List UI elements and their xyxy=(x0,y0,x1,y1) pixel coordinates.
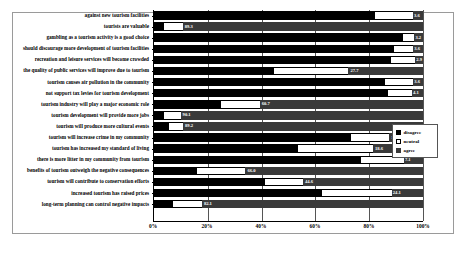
data-label: 3.2 xyxy=(415,35,421,40)
x-tick-label: 0% xyxy=(149,223,157,229)
chart-page: against new tourism facilitiestourists a… xyxy=(0,0,466,266)
bar-segment-neutral xyxy=(388,89,412,98)
bar-segment-agree: 24.1 xyxy=(392,189,423,198)
data-label: 89.2 xyxy=(185,124,193,129)
x-tick-label: 40% xyxy=(256,223,267,229)
x-tick-label: 20% xyxy=(202,223,213,229)
category-label-column: against new tourism facilitiestourists a… xyxy=(0,10,152,210)
bar-segment-agree: 2.9 xyxy=(415,56,423,65)
category-label: tourism development will provide more jo… xyxy=(0,110,152,121)
bar-segment-agree: 3.2 xyxy=(414,33,423,42)
data-label: 82.1 xyxy=(204,202,212,207)
category-label: tourism will increase crime in my commun… xyxy=(0,132,152,143)
bar-segment-disagree xyxy=(154,167,197,176)
legend-item-agree[interactable]: agree xyxy=(396,146,434,154)
bar-segment-disagree xyxy=(154,178,265,187)
stacked-bar: 12.5 xyxy=(154,133,423,142)
category-label: tourism causes air pollution in the comm… xyxy=(0,77,152,88)
category-label: tourism will produce more cultural event… xyxy=(0,121,152,132)
bar-segment-agree: 66.0 xyxy=(245,167,423,176)
bar-segment-neutral xyxy=(351,133,389,142)
stacked-bar: 66.0 xyxy=(154,167,423,176)
data-label: 44.6 xyxy=(305,180,313,185)
bar-segment-disagree xyxy=(154,189,322,198)
bar-segment-disagree xyxy=(154,67,274,76)
bar-row: 24.1 xyxy=(154,188,423,199)
bar-segment-agree: 89.2 xyxy=(183,122,423,131)
stacked-bar: 44.6 xyxy=(154,178,423,187)
category-label: increased tourism has raised prices xyxy=(0,188,152,199)
legend-label: agree xyxy=(404,148,416,153)
stacked-bar: 90.1 xyxy=(154,111,423,120)
bar-segment-agree: 3.6 xyxy=(413,11,423,20)
bar-segment-disagree xyxy=(154,156,361,165)
bar-segment-neutral xyxy=(274,67,349,76)
data-label: 90.1 xyxy=(183,113,191,118)
bar-segment-neutral xyxy=(221,100,259,109)
bar-row: 7.1 xyxy=(154,154,423,165)
bar-row: 3.2 xyxy=(154,32,423,43)
category-label: against new tourism facilities xyxy=(0,10,152,21)
bar-segment-neutral xyxy=(322,189,392,198)
category-label: long-term planning can control negative … xyxy=(0,199,152,210)
bar-segment-disagree xyxy=(154,56,391,65)
bar-segment-disagree xyxy=(154,133,351,142)
x-tick-label: 80% xyxy=(364,223,375,229)
category-label: gambling as a tourism activity is a good… xyxy=(0,32,152,43)
bar-row: 2.9 xyxy=(154,54,423,65)
bar-segment-neutral xyxy=(173,200,202,209)
bar-segment-agree: 82.1 xyxy=(202,200,423,209)
bar-segment-disagree xyxy=(154,89,388,98)
category-label: should discourage more development of to… xyxy=(0,43,152,54)
bar-segment-disagree xyxy=(154,111,164,120)
bar-row: 4.1 xyxy=(154,88,423,99)
data-label: 7.1 xyxy=(405,157,411,162)
category-label: tourists are valuable xyxy=(0,21,152,32)
bar-segment-agree: 4.1 xyxy=(412,89,423,98)
bar-segment-agree: 3.6 xyxy=(413,45,423,54)
legend-swatch-disagree xyxy=(396,130,401,135)
bar-row: 66.0 xyxy=(154,165,423,176)
bar-segment-neutral xyxy=(164,22,183,31)
legend: disagreeneutralagree xyxy=(392,124,438,158)
data-label: 4.1 xyxy=(413,91,419,96)
data-label: 24.1 xyxy=(393,191,401,196)
data-label: 2.9 xyxy=(416,58,422,63)
data-label: 66.0 xyxy=(247,169,255,174)
legend-item-disagree[interactable]: disagree xyxy=(396,128,434,136)
bar-row: 3.6 xyxy=(154,77,423,88)
data-label: 27.7 xyxy=(350,69,358,74)
x-tick-label: 100% xyxy=(416,223,429,229)
legend-item-neutral[interactable]: neutral xyxy=(396,137,434,145)
bar-segment-neutral xyxy=(164,111,181,120)
stacked-bar: 89.3 xyxy=(154,22,423,31)
legend-label: disagree xyxy=(404,130,422,135)
bar-segment-disagree xyxy=(154,45,394,54)
bar-segment-disagree xyxy=(154,78,385,87)
bar-segment-neutral xyxy=(403,33,415,42)
bar-segment-disagree xyxy=(154,11,375,20)
bar-segment-neutral xyxy=(169,122,184,131)
x-axis-tick-labels: 0%20%40%60%80%100% xyxy=(153,223,423,235)
bar-segment-disagree xyxy=(154,144,298,153)
stacked-bar: 24.1 xyxy=(154,189,423,198)
bar-segment-agree: 3.6 xyxy=(413,78,423,87)
bar-segment-disagree xyxy=(154,22,164,31)
bar-segment-disagree xyxy=(154,122,169,131)
bar-row: 3.6 xyxy=(154,43,423,54)
bar-segment-disagree xyxy=(154,100,221,109)
category-label: there is more litter in my community fro… xyxy=(0,154,152,165)
bar-segment-agree: 27.7 xyxy=(348,67,423,76)
legend-swatch-neutral xyxy=(396,139,401,144)
stacked-bar: 3.6 xyxy=(154,78,423,87)
x-axis-line xyxy=(153,221,423,222)
bar-segment-neutral xyxy=(298,144,373,153)
bar-segment-neutral xyxy=(265,178,303,187)
bar-row: 60.7 xyxy=(154,99,423,110)
data-label: 18.6 xyxy=(375,146,383,151)
category-label: not support tax levies for tourism devel… xyxy=(0,88,152,99)
data-label: 3.6 xyxy=(414,47,420,52)
data-label: 89.3 xyxy=(185,24,193,29)
bar-row: 44.6 xyxy=(154,176,423,187)
bar-row: 3.6 xyxy=(154,10,423,21)
